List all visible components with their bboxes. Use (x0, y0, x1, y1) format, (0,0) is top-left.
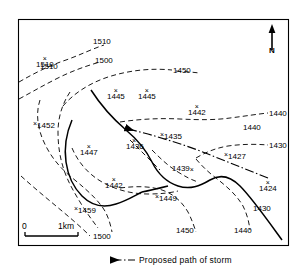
spot-height: × 1447 (80, 144, 98, 157)
spot-height-value: 1439 (172, 164, 190, 173)
spot-height: ×1452 (33, 120, 55, 130)
spot-height: 1439× (172, 164, 194, 173)
contour-label: 1500 (93, 233, 111, 242)
spot-height-value: 1424 (259, 185, 277, 193)
spot-height: × 1436 (126, 138, 144, 151)
spot-height-value: 1445 (107, 93, 125, 101)
contour-label: 1450 (173, 67, 191, 76)
spot-height: × 1445 (138, 88, 156, 101)
spot-height-value: 1459 (78, 206, 96, 215)
spot-height: ×1435 (160, 131, 182, 141)
spot-height: ×1427 (224, 151, 246, 161)
spot-height-value: 1427 (228, 152, 246, 161)
contour-map-figure: N 0 1km Proposed path of storm 1510 1510… (0, 0, 302, 279)
spot-height-value: 1445 (138, 93, 156, 101)
spot-height-value: 1436 (126, 143, 144, 151)
spot-height-marker-icon: × (190, 166, 194, 173)
spot-height-value: 1442 (188, 109, 206, 117)
spot-height-value: 1449 (159, 194, 177, 203)
contour-label: 1430 (253, 205, 271, 214)
contour-label: 1450 (176, 227, 194, 236)
spot-height: × 1442 (105, 177, 123, 190)
spot-height-value: 1510 (36, 61, 54, 69)
legend-symbol (0, 0, 302, 279)
contour-label: 1430 (269, 142, 287, 151)
contour-label: 1510 (93, 38, 111, 47)
contour-label: 1440 (243, 124, 261, 133)
spot-height-value: 1447 (80, 149, 98, 157)
contour-label: 1500 (95, 57, 113, 66)
spot-height: × 1510 (36, 56, 54, 69)
spot-height-value: 1442 (105, 182, 123, 190)
contour-label: 1440 (234, 227, 252, 236)
legend-label: Proposed path of storm (139, 255, 232, 265)
spot-height: × 1445 (107, 88, 125, 101)
spot-height: × 1424 (259, 180, 277, 193)
contour-label: 1440 (269, 110, 287, 119)
spot-height: ×1459 (74, 205, 96, 215)
spot-height: ×1449 (155, 193, 177, 203)
spot-height-value: 1435 (164, 132, 182, 141)
spot-height: × 1442 (188, 104, 206, 117)
spot-height-value: 1452 (37, 121, 55, 130)
